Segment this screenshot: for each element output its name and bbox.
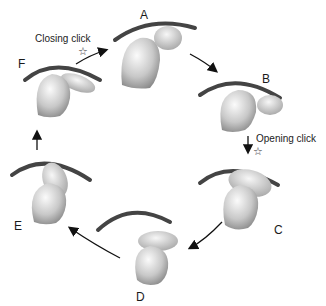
opening-click-star-icon: ☆	[253, 145, 263, 158]
cycle-diagram	[0, 0, 326, 306]
stage-label-f: F	[18, 57, 25, 71]
arrow-c-to-d	[190, 222, 222, 248]
stage-label-d: D	[136, 290, 145, 304]
opening-click-caption: Opening click	[256, 133, 316, 144]
stage-a-illustration	[115, 24, 195, 89]
closing-click-star-icon: ☆	[78, 45, 88, 58]
stage-c-illustration	[200, 165, 278, 230]
arrow-d-to-e	[70, 228, 120, 258]
stage-label-a: A	[140, 8, 148, 22]
stage-d-illustration	[98, 213, 178, 285]
stage-label-c: C	[274, 223, 283, 237]
stage-label-e: E	[14, 219, 22, 233]
arrow-a-to-b	[190, 54, 216, 71]
closing-click-caption: Closing click	[35, 33, 91, 44]
stage-f-illustration	[25, 68, 100, 118]
stage-label-b: B	[262, 72, 270, 86]
stage-b-illustration	[200, 83, 283, 132]
stage-e-illustration	[12, 159, 90, 224]
